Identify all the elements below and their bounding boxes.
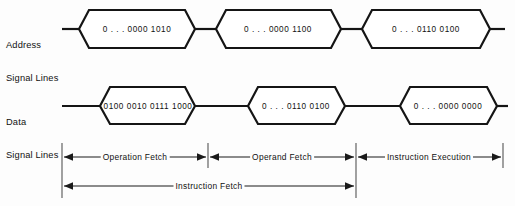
address-value-1: 0 . . . 0000 1010 bbox=[103, 25, 172, 34]
address-row-label-line2: Signal Lines bbox=[6, 73, 58, 84]
timing-diagram: Address Signal Lines Data Signal Lines 0… bbox=[0, 0, 515, 206]
phase-arrow-3-left bbox=[358, 153, 367, 160]
data-value-3: 0 . . . 0000 0000 bbox=[414, 102, 483, 111]
phase-arrow-1-right bbox=[197, 153, 206, 160]
phase-arrow-3-right bbox=[492, 153, 501, 160]
data-row-label-line2: Signal Lines bbox=[6, 150, 58, 161]
data-row-label: Data Signal Lines bbox=[6, 95, 58, 183]
phase-arrow-2-left bbox=[210, 153, 219, 160]
span-label-instruction-fetch: Instruction Fetch bbox=[173, 181, 244, 191]
span-arrow-left bbox=[64, 182, 73, 189]
phase-arrow-1-left bbox=[64, 153, 73, 160]
address-row-label: Address Signal Lines bbox=[6, 18, 58, 106]
data-row-label-line1: Data bbox=[6, 117, 58, 128]
data-value-1: 0100 0010 0111 1000 bbox=[104, 102, 193, 111]
phase-arrow-2-right bbox=[345, 153, 354, 160]
address-value-3: 0 . . . 0110 0100 bbox=[392, 25, 460, 34]
data-value-2: 0 . . . 0110 0100 bbox=[262, 102, 330, 111]
phase-label-operation-fetch: Operation Fetch bbox=[101, 152, 170, 162]
address-row-label-line1: Address bbox=[6, 40, 58, 51]
phase-label-instruction-execution: Instruction Execution bbox=[385, 152, 473, 162]
phase-label-operand-fetch: Operand Fetch bbox=[250, 152, 314, 162]
span-arrow-right bbox=[345, 182, 354, 189]
address-value-2: 0 . . . 0000 1100 bbox=[244, 25, 312, 34]
